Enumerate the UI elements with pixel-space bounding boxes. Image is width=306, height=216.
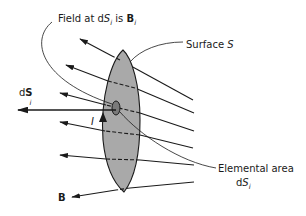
surface-s <box>103 50 140 192</box>
label-field-at-dSi: Field at dSi is Bi <box>58 13 136 27</box>
label-elemental-area: Elemental area <box>218 163 294 174</box>
label-surface-s: Surface S <box>186 39 234 50</box>
label-b-field: B <box>58 192 66 203</box>
elemental-area <box>112 101 120 115</box>
label-current-i: I <box>91 116 94 127</box>
flux-diagram: Field at dSi is Bi Surface S dSi I Eleme… <box>0 0 306 216</box>
label-elemental-dSi: dSi <box>236 177 251 191</box>
label-dSi: dSi <box>19 87 33 107</box>
